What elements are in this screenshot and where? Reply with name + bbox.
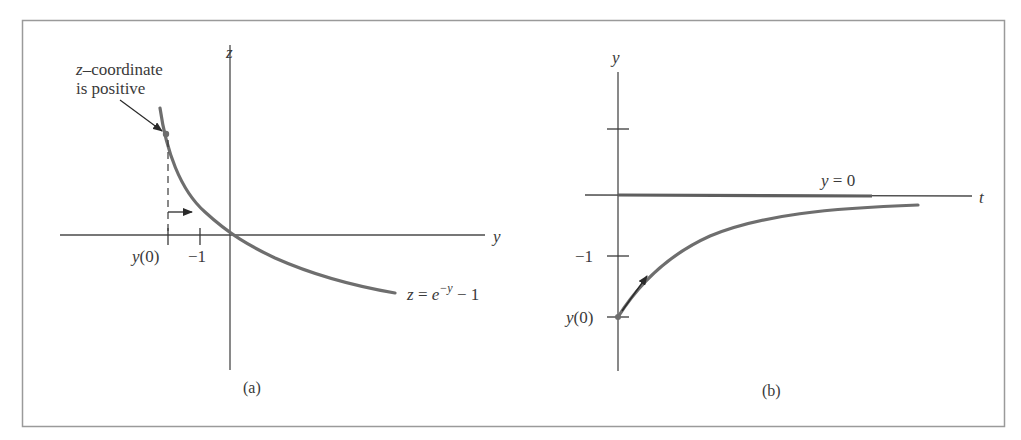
panel-b-tick-label-y0: y(0) [564, 308, 593, 327]
panel-a-initial-point [163, 131, 169, 137]
panel-a-tick-label-y0: y(0) [130, 247, 159, 266]
figure-border [23, 21, 1005, 427]
panel-a: z y z–coordinate is positive y(0) −1 z =… [60, 43, 501, 397]
panel-a-tick-label-minus-one: −1 [188, 247, 206, 266]
panel-a-annotation-line2: is positive [76, 79, 145, 98]
panel-b-caption: (b) [762, 382, 781, 400]
panel-b-direction-arrow [622, 276, 647, 311]
panel-b-equilibrium-line [618, 195, 872, 196]
panel-b-tick-label-minus-one: −1 [575, 247, 593, 266]
panel-b-solution-curve [618, 205, 918, 317]
panel-b-equilibrium-label: y = 0 [819, 171, 855, 190]
panel-a-caption: (a) [243, 379, 261, 397]
panel-a-annotation: z–coordinate [75, 60, 163, 79]
panel-a-z-axis-label: z [225, 43, 233, 62]
panel-b-initial-point [615, 314, 621, 320]
panel-a-y-axis-label: y [491, 227, 501, 246]
panel-b: y t y = 0 −1 y(0) (b) [564, 48, 985, 400]
figure: z y z–coordinate is positive y(0) −1 z =… [0, 0, 1021, 440]
panel-b-t-axis-label: t [979, 188, 985, 207]
panel-b-y-axis-label: y [610, 48, 620, 67]
panel-a-curve-label: z = e−y − 1 [406, 281, 479, 304]
annotation-line1: –coordinate [82, 60, 163, 79]
panel-a-annotation-pointer [120, 100, 162, 131]
